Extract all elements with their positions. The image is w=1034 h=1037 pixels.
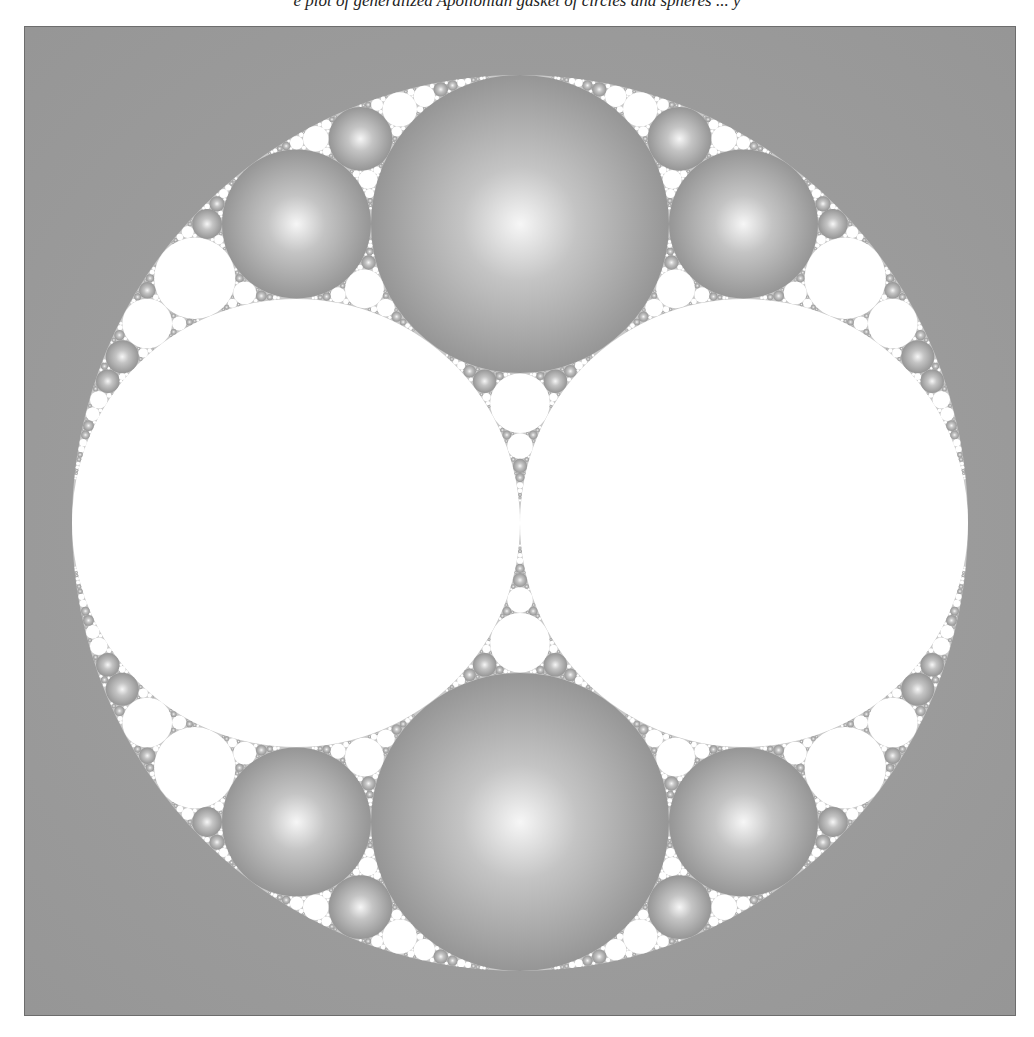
white-circle [223,198,226,201]
shaded-sphere [897,685,901,689]
white-circle [290,896,292,898]
shaded-sphere [81,607,90,616]
shaded-sphere [190,220,192,222]
shaded-sphere [962,469,965,472]
white-circle [86,407,100,421]
shaded-sphere [804,864,807,867]
white-circle [520,299,968,747]
white-circle [372,254,374,256]
shaded-sphere [525,584,530,589]
shaded-sphere [955,429,957,431]
white-circle [323,891,331,899]
shaded-sphere [884,779,886,781]
white-circle [809,855,815,861]
white-circle [499,426,502,429]
white-circle [93,622,96,625]
shaded-sphere [412,715,415,718]
shaded-sphere [643,905,648,910]
shaded-sphere [318,295,323,300]
shaded-sphere [106,673,139,706]
white-circle [356,268,359,271]
white-circle [928,648,933,653]
white-circle [326,913,329,916]
white-circle [518,488,523,493]
white-circle [376,174,379,177]
white-circle [835,207,838,210]
white-circle [80,439,87,446]
white-circle [666,875,668,877]
shaded-sphere [332,887,334,889]
white-circle [582,80,584,82]
white-circle [374,872,381,879]
shaded-sphere [535,428,539,432]
shaded-sphere [75,472,78,475]
shaded-sphere [367,198,372,203]
shaded-sphere [134,294,141,301]
shaded-sphere [573,363,575,365]
shaded-sphere [773,745,784,756]
white-circle [371,734,377,740]
white-circle [89,613,91,615]
shaded-sphere [806,860,810,864]
white-circle [448,953,451,956]
white-circle [814,845,817,848]
shaded-sphere [943,384,945,386]
shaded-sphere [650,747,652,749]
shaded-sphere [924,704,928,708]
shaded-sphere [592,82,606,96]
shaded-sphere [473,369,497,393]
white-circle [235,775,238,778]
white-circle [108,677,110,679]
white-circle [927,341,929,343]
shaded-sphere [852,325,854,327]
white-circle [630,718,635,723]
white-circle [532,373,536,377]
shaded-sphere [536,666,544,674]
white-circle [223,845,226,848]
shaded-sphere [434,949,448,963]
white-circle [235,282,238,285]
shaded-sphere [222,150,371,299]
white-circle [321,120,331,130]
white-circle [763,746,767,750]
white-circle [803,177,806,180]
white-circle [353,869,360,876]
shaded-sphere [769,892,771,894]
shaded-sphere [814,247,817,250]
shaded-sphere [920,653,944,677]
shaded-sphere [392,902,395,905]
white-circle [172,715,186,729]
white-circle [717,150,720,153]
white-circle [960,580,964,584]
shaded-sphere [557,393,560,396]
white-circle [270,892,273,895]
white-circle [750,904,753,907]
white-circle [623,919,657,953]
white-circle [365,848,374,857]
white-circle [299,133,304,138]
white-circle [445,962,448,965]
shaded-sphere [543,371,546,374]
shaded-sphere [862,238,866,242]
white-circle [626,89,633,96]
white-circle [469,664,473,668]
white-circle [211,805,214,808]
shaded-sphere [192,209,222,239]
shaded-sphere [817,232,821,236]
shaded-sphere [942,386,947,391]
white-circle [507,433,533,459]
white-circle [99,675,102,678]
shaded-sphere [625,329,628,332]
white-circle [365,790,367,792]
shaded-sphere [866,241,869,244]
shaded-sphere [893,764,896,767]
shaded-sphere [193,319,197,323]
white-circle [963,477,965,479]
white-circle [892,688,901,697]
shaded-sphere [695,283,700,288]
shaded-sphere [82,615,84,617]
shaded-sphere [137,347,140,350]
white-circle [125,670,128,673]
shaded-sphere [186,319,193,326]
white-circle [377,729,395,747]
